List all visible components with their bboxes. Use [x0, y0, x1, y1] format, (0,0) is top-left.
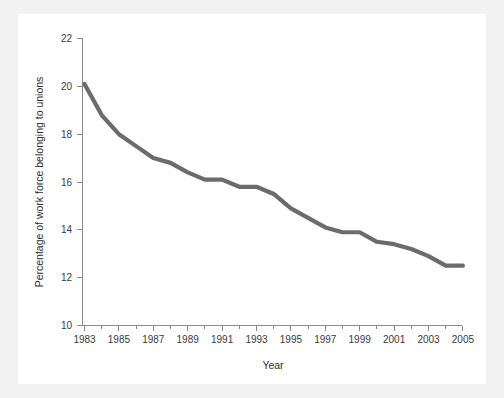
y-tick-label: 10: [61, 320, 73, 331]
x-tick-label: 1995: [280, 334, 303, 345]
series-line-union-membership: [85, 84, 463, 266]
x-tick-label: 1993: [245, 334, 268, 345]
y-tick-label: 14: [61, 224, 73, 235]
y-tick-label: 20: [61, 81, 73, 92]
x-tick-label: 2005: [452, 334, 475, 345]
x-tick-label: 1999: [349, 334, 372, 345]
chart-panel: 22 20 18 16 14 12 10: [18, 14, 486, 384]
y-axis-ticks: [77, 39, 83, 326]
x-tick-label: 1989: [177, 334, 200, 345]
x-tick-label: 1985: [108, 334, 131, 345]
x-tick-label: 2003: [417, 334, 440, 345]
x-tick-label: 1991: [211, 334, 234, 345]
x-tick-label: 1987: [142, 334, 165, 345]
y-tick-label: 18: [61, 129, 73, 140]
y-axis-title: Percentage of work force belonging to un…: [33, 77, 45, 288]
line-chart: 22 20 18 16 14 12 10: [18, 14, 486, 384]
x-tick-label: 2001: [383, 334, 406, 345]
x-axis-title: Year: [262, 359, 284, 371]
y-tick-label: 16: [61, 177, 73, 188]
x-tick-label: 1983: [73, 334, 96, 345]
y-tick-label: 22: [61, 33, 73, 44]
x-tick-label: 1997: [314, 334, 337, 345]
y-tick-label: 12: [61, 272, 73, 283]
